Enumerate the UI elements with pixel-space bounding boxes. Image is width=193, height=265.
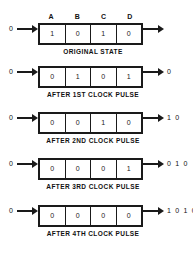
output-arrow-icon [158,160,164,168]
serial-input-label: 0 [7,23,15,35]
register-cell-b: 0 [66,207,92,225]
register-cell-a: 1 [40,25,66,43]
serial-input-label: 0 [7,112,15,124]
output-arrow-icon [158,114,164,122]
output-arrow-line [143,210,159,212]
input-arrow-line [17,117,33,119]
register-box: 0 0 0 0 [38,205,143,227]
input-arrow-line [17,163,33,165]
register-cell-d: 1 [117,68,142,86]
serial-input-label: 0 [7,66,15,78]
register-cell-d: 0 [117,25,142,43]
register-cell-a: 0 [40,207,66,225]
row-caption: AFTER 2ND CLOCK PULSE [0,136,186,146]
register-row: A B C D 0 1 0 1 0 ORIGINAL STATE [0,11,193,57]
register-cell-d: 1 [117,160,142,178]
output-arrow-line [143,117,159,119]
output-arrow-icon [158,25,164,33]
input-arrow-line [17,71,33,73]
register-box: 0 1 0 1 [38,66,143,88]
output-arrow-line [143,163,159,165]
output-arrow-icon [158,68,164,76]
serial-output-label: 0 1 0 [167,158,189,170]
register-box: 0 0 1 0 [38,112,143,134]
column-header-a: A [38,11,64,23]
register-cell-a: 0 [40,160,66,178]
input-arrow-line [17,210,33,212]
serial-output-label: 0 [167,66,172,78]
register-cell-b: 0 [66,160,92,178]
register-row: 0 0 0 1 0 1 0 AFTER 2ND CLOCK PULSE [0,112,193,158]
row-caption: ORIGINAL STATE [0,47,186,57]
register-row: 0 0 0 0 1 0 1 0 AFTER 3RD CLOCK PULSE [0,158,193,204]
column-header-d: D [117,11,143,23]
register-cell-d: 0 [117,114,142,132]
register-cell-b: 0 [66,114,92,132]
serial-output-label: 1 0 [167,112,180,124]
register-cell-b: 1 [66,68,92,86]
row-caption: AFTER 1ST CLOCK PULSE [0,90,186,100]
column-header-b: B [64,11,90,23]
register-box: 0 0 0 1 [38,158,143,180]
register-row: 0 0 1 0 1 0 AFTER 1ST CLOCK PULSE [0,66,193,112]
register-row: 0 0 0 0 0 1 0 1 0 AFTER 4TH CLOCK PULSE [0,205,193,251]
register-box: 1 0 1 0 [38,23,143,45]
output-arrow-line [143,28,159,30]
output-arrow-icon [158,207,164,215]
serial-input-label: 0 [7,205,15,217]
output-arrow-line [143,71,159,73]
register-cell-c: 0 [91,207,117,225]
input-arrow-line [17,28,33,30]
register-cell-b: 0 [66,25,92,43]
register-cell-a: 0 [40,114,66,132]
register-cell-d: 0 [117,207,142,225]
row-caption: AFTER 4TH CLOCK PULSE [0,229,186,239]
row-caption: AFTER 3RD CLOCK PULSE [0,182,186,192]
column-headers: A B C D [38,11,143,23]
register-cell-a: 0 [40,68,66,86]
serial-input-label: 0 [7,158,15,170]
column-header-c: C [91,11,117,23]
register-cell-c: 0 [91,160,117,178]
shift-register-diagram: A B C D 0 1 0 1 0 ORIGINAL STATE 0 [0,0,193,265]
register-cell-c: 0 [91,68,117,86]
register-cell-c: 1 [91,25,117,43]
serial-output-label: 1 0 1 0 [167,205,193,217]
register-cell-c: 1 [91,114,117,132]
